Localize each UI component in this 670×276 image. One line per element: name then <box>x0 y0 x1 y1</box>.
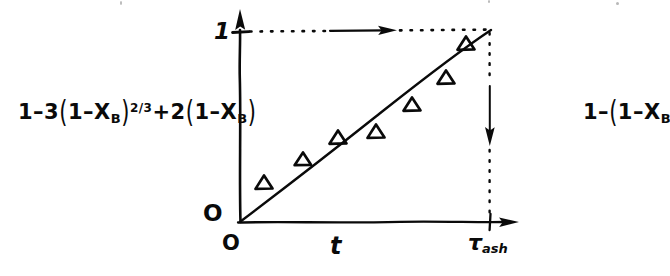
scan-artifact-speck <box>120 1 122 5</box>
formula-left-close-paren-1: ) <box>121 95 130 130</box>
tau-symbol: τ <box>468 230 482 255</box>
sketch-figure-canvas: 1 O O t τash 1–3(1–XB)2/3+2(1–XB) 1–(1–X… <box>0 0 670 276</box>
formula-left-subscript-1: B <box>111 111 121 126</box>
data-point-triangle <box>330 131 347 144</box>
formula-left-close-paren-2: ) <box>248 95 257 130</box>
tau-subscript: ash <box>482 241 508 256</box>
formula-left-subscript-2: B <box>237 111 247 126</box>
y-axis-formula-label: 1–3(1–XB)2/3+2(1–XB) <box>18 100 256 126</box>
adjacent-figure-formula-label: 1–(1–XB <box>583 100 670 126</box>
downward-arrow-icon <box>485 86 495 146</box>
formula-left-inner-2: 1–X <box>194 100 237 124</box>
x-tick-tau-ash <box>490 214 491 230</box>
formula-left-open-paren-1: ( <box>59 95 68 130</box>
formula-left-inner-1: 1–X <box>68 100 111 124</box>
rightward-arrow-icon <box>330 26 397 35</box>
formula-right-part1: 1– <box>583 100 609 124</box>
y-tick-one <box>233 32 250 33</box>
data-point-triangle <box>256 176 273 189</box>
fitted-trend-line <box>241 30 492 222</box>
x-axis-label: t <box>330 232 341 260</box>
scan-artifact-speck <box>488 0 490 3</box>
scan-artifact-speck <box>616 2 619 5</box>
data-point-triangle <box>438 71 455 84</box>
formula-left-part2: +2 <box>152 100 185 124</box>
formula-left-part1: 1–3 <box>18 100 59 124</box>
data-point-triangle <box>368 125 385 138</box>
x-axis-tau-ash-label: τash <box>468 230 508 256</box>
formula-left-exponent: 2/3 <box>130 101 153 115</box>
formula-right-subscript: B <box>661 111 670 126</box>
formula-right-inner: 1–X <box>618 100 661 124</box>
data-point-triangle <box>404 98 421 111</box>
data-point-triangle <box>295 153 311 166</box>
y-axis-origin-label: O <box>203 200 223 226</box>
x-axis <box>238 217 519 227</box>
y-axis-tick-label-one: 1 <box>214 18 230 44</box>
x-axis-origin-label: O <box>222 231 240 255</box>
formula-right-open-paren: ( <box>609 95 618 130</box>
data-point-markers <box>256 37 475 189</box>
formula-left-open-paren-2: ( <box>186 95 195 130</box>
